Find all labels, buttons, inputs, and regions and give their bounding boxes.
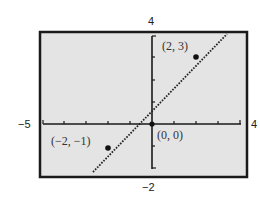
ymax-label: 4 [148,15,154,27]
point-label-neg2-neg1: (−2, −1) [51,134,91,148]
point-label-origin: (0, 0) [157,128,183,142]
graph-window: (2, 3) (−2, −1) (0, 0) 4 −2 −5 4 [0,0,260,199]
xmax-label: 4 [251,118,257,130]
point-origin [149,121,154,126]
point-neg2-neg1 [105,145,111,151]
point-2-3 [193,54,199,60]
xmin-label: −5 [18,118,31,130]
point-label-2-3: (2, 3) [162,39,188,53]
ymin-label: −2 [142,181,155,193]
graph-frame [40,32,247,177]
